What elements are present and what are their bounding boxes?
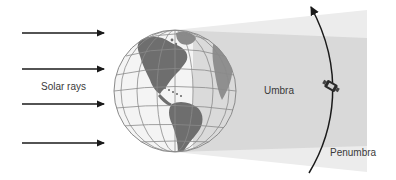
eclipse-diagram: Solar rays Umbra Penumbra <box>0 0 396 180</box>
solar-rays-label: Solar rays <box>41 81 86 92</box>
umbra-label: Umbra <box>264 85 294 96</box>
penumbra-label: Penumbra <box>330 147 376 158</box>
